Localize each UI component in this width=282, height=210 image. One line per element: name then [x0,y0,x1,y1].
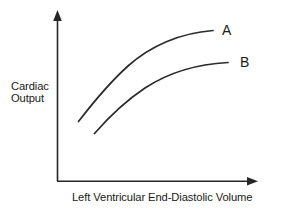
y-axis-label-line-2: Output [11,93,49,105]
cardiac-output-chart: Cardiac Output Left Ventricular End-Dias… [0,0,282,210]
curve-a-path [79,31,214,122]
curve-a-label: A [222,23,231,38]
y-axis-arrow-icon [53,10,62,21]
x-axis-label: Left Ventricular End-Diastolic Volume [72,192,252,204]
y-axis-label: Cardiac Output [11,81,49,105]
y-axis-label-line-1: Cardiac [11,81,49,93]
curve-b-label: B [240,55,249,70]
curve-b-path [95,63,229,134]
x-axis-arrow-icon [247,177,258,186]
chart-plot-area [0,0,282,210]
